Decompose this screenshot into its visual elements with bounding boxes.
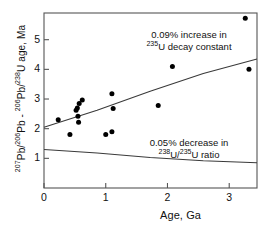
y-label-sup-1: 207: [14, 160, 21, 172]
x-tick-label: 2: [162, 191, 172, 203]
y-tick-label: 4: [29, 62, 40, 74]
annotation-lower-curve: 0.05% decrease in 238U/235U ratio: [126, 137, 252, 160]
annotation-upper-line2: U decay constant: [158, 41, 231, 52]
y-tick-label: 3: [29, 92, 40, 104]
data-point: [109, 129, 114, 134]
annotation-lower-sup-b: 235: [180, 147, 192, 154]
data-point: [80, 97, 85, 102]
annotation-upper-line1: 0.09% increase in: [151, 29, 227, 40]
data-point: [76, 120, 81, 125]
y-label-sup-2: 206: [14, 133, 21, 145]
data-point: [170, 64, 175, 69]
annotation-lower-line2: U ratio: [191, 149, 219, 160]
data-point: [111, 106, 116, 111]
data-point: [103, 132, 108, 137]
y-tick-label: 1: [29, 151, 40, 163]
annotation-upper-curve: 0.09% increase in 235U decay constant: [126, 29, 252, 52]
annotation-lower-line1: 0.05% decrease in: [150, 137, 229, 148]
y-axis-ticks: [44, 40, 49, 159]
x-tick-label: 3: [224, 191, 234, 203]
y-label-sup-3: 206: [14, 99, 21, 111]
data-point: [67, 132, 72, 137]
figure-scatter-plot: 0123 12345 Age, Ga 207Pb/206Pb - 206Pb/2…: [0, 0, 275, 232]
y-label-dash: -: [16, 111, 27, 120]
data-point: [246, 67, 251, 72]
data-point: [56, 117, 61, 122]
x-axis-ticks: [44, 183, 229, 188]
data-point: [109, 91, 114, 96]
x-tick-label: 1: [101, 191, 111, 203]
y-label-base-2: Pb: [16, 120, 27, 132]
y-label-base-3: Pb/: [16, 84, 27, 99]
annotation-lower-sup-a: 238: [159, 147, 171, 154]
annotation-upper-sup: 235: [146, 39, 158, 46]
y-label-sup-4: 238: [14, 72, 21, 84]
data-point: [75, 105, 80, 110]
x-tick-label: 0: [39, 191, 49, 203]
annotation-lower-mid: U/: [170, 149, 180, 160]
y-tick-label: 5: [29, 33, 40, 45]
data-point: [75, 114, 80, 119]
x-axis-title: Age, Ga: [160, 209, 201, 221]
y-axis-title: 207Pb/206Pb - 206Pb/238U age, Ma: [16, 9, 27, 189]
data-point: [156, 103, 161, 108]
data-point: [243, 16, 248, 21]
y-tick-label: 2: [29, 122, 40, 134]
y-label-base-4: U age, Ma: [16, 25, 27, 72]
y-label-base-1: Pb/: [16, 145, 27, 160]
